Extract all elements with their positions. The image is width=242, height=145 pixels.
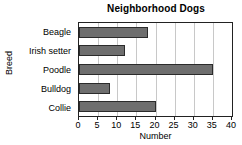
x-tick-label: 5: [95, 120, 100, 130]
bar-slot: [79, 60, 232, 79]
bar-irish-setter: [79, 45, 125, 56]
x-tick-label: 30: [188, 120, 198, 130]
y-tick-label-poodle: Poodle: [14, 60, 74, 79]
x-tick-label: 15: [130, 120, 140, 130]
bar-collie: [79, 101, 156, 112]
bar-slot: [79, 97, 232, 116]
y-tick-label-irish-setter: Irish setter: [14, 41, 74, 60]
bar-beagle: [79, 27, 148, 38]
bar-slot: [79, 42, 232, 61]
y-axis-title: Breed: [4, 38, 14, 88]
bar-bulldog: [79, 83, 110, 94]
bars-layer: [79, 23, 232, 116]
x-tick-label: 20: [149, 120, 159, 130]
x-tick-label: 35: [207, 120, 217, 130]
x-tick-label: 10: [111, 120, 121, 130]
bar-poodle: [79, 64, 213, 75]
bar-slot: [79, 79, 232, 98]
x-tick-label: 0: [75, 120, 80, 130]
bar-slot: [79, 23, 232, 42]
plot-area: [78, 22, 233, 117]
y-tick-label-beagle: Beagle: [14, 22, 74, 41]
x-tick-label: 25: [169, 120, 179, 130]
y-tick-label-collie: Collie: [14, 98, 74, 117]
bar-chart: Neighborhood Dogs Breed Beagle Irish set…: [0, 0, 242, 145]
x-axis-title: Number: [78, 131, 233, 141]
x-tick-label: 40: [226, 120, 236, 130]
y-tick-label-bulldog: Bulldog: [14, 79, 74, 98]
chart-title: Neighborhood Dogs: [78, 3, 234, 14]
y-axis-tick-labels: Beagle Irish setter Poodle Bulldog Colli…: [14, 22, 74, 117]
